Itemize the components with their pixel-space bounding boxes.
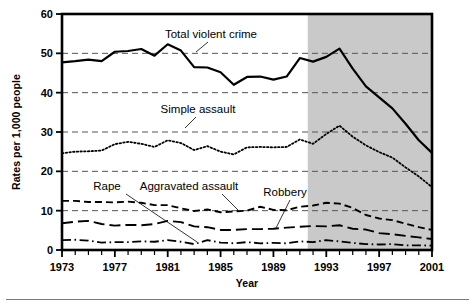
y-tick-label-50: 50	[41, 47, 53, 59]
x-tick-label-1977: 1977	[103, 261, 127, 273]
series-label-aggravated-assault: Aggravated assault	[140, 180, 239, 192]
series-label-rape: Rape	[93, 180, 121, 192]
y-tick-label-10: 10	[41, 205, 53, 217]
y-tick-label-40: 40	[41, 87, 53, 99]
x-tick-label-2001: 2001	[420, 261, 444, 273]
x-tick-label-1993: 1993	[314, 261, 338, 273]
leader-line-robbery	[276, 200, 290, 228]
chart-figure: 1973197719811985198919931997200101020304…	[0, 0, 475, 306]
leader-line-aggravated-assault	[222, 194, 238, 210]
series-label-robbery: Robbery	[263, 186, 307, 198]
y-tick-label-0: 0	[47, 244, 53, 256]
x-axis-title: Year	[236, 277, 259, 289]
x-tick-label-1985: 1985	[208, 261, 232, 273]
x-tick-label-1989: 1989	[261, 261, 285, 273]
y-axis-title: Rates per 1,000 people	[10, 74, 22, 190]
leader-line-simple-assault	[185, 117, 196, 128]
crime-rates-line-chart: 1973197719811985198919931997200101020304…	[0, 0, 475, 306]
y-tick-label-60: 60	[41, 8, 53, 20]
footer-divider	[6, 299, 469, 300]
x-tick-label-1997: 1997	[367, 261, 391, 273]
x-tick-label-1981: 1981	[155, 261, 179, 273]
series-label-simple-assault: Simple assault	[161, 103, 237, 115]
x-tick-label-1973: 1973	[50, 261, 74, 273]
leader-line-total-violent-crime	[196, 42, 208, 52]
series-label-total-violent-crime: Total violent crime	[165, 28, 257, 40]
leader-line-rape	[126, 194, 197, 242]
y-tick-label-30: 30	[41, 126, 53, 138]
y-tick-label-20: 20	[41, 165, 53, 177]
